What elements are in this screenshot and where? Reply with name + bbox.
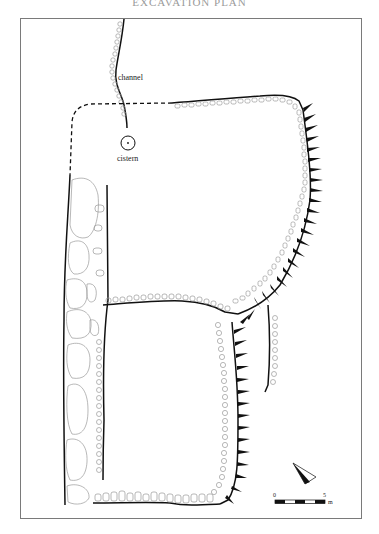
north-room-top-wall — [172, 95, 303, 110]
scale-bar — [275, 500, 325, 504]
south-wall-stones — [95, 491, 213, 503]
site-plan-drawing: channel cistern — [0, 0, 379, 534]
west-wall-inner — [103, 185, 108, 480]
annex-wall — [265, 305, 270, 392]
scale-start-label: 0 — [273, 492, 276, 498]
annex-stones — [271, 316, 278, 385]
cistern-label: cistern — [117, 154, 138, 163]
cistern — [121, 136, 135, 150]
west-wall-stones — [66, 178, 104, 504]
channel-label: channel — [118, 73, 144, 82]
south-wall — [93, 503, 220, 505]
reconstructed-wall-dashed — [70, 103, 172, 175]
west-wall-outer — [64, 175, 70, 505]
south-room-east-stones — [211, 322, 227, 494]
scale-unit-label: m — [328, 499, 333, 505]
north-arrow-icon — [293, 463, 316, 484]
scarp-hachures-north — [254, 103, 323, 309]
divider-stones — [106, 294, 230, 311]
scarp-hachures-south — [225, 309, 255, 504]
scale-end-label: 5 — [323, 492, 326, 498]
